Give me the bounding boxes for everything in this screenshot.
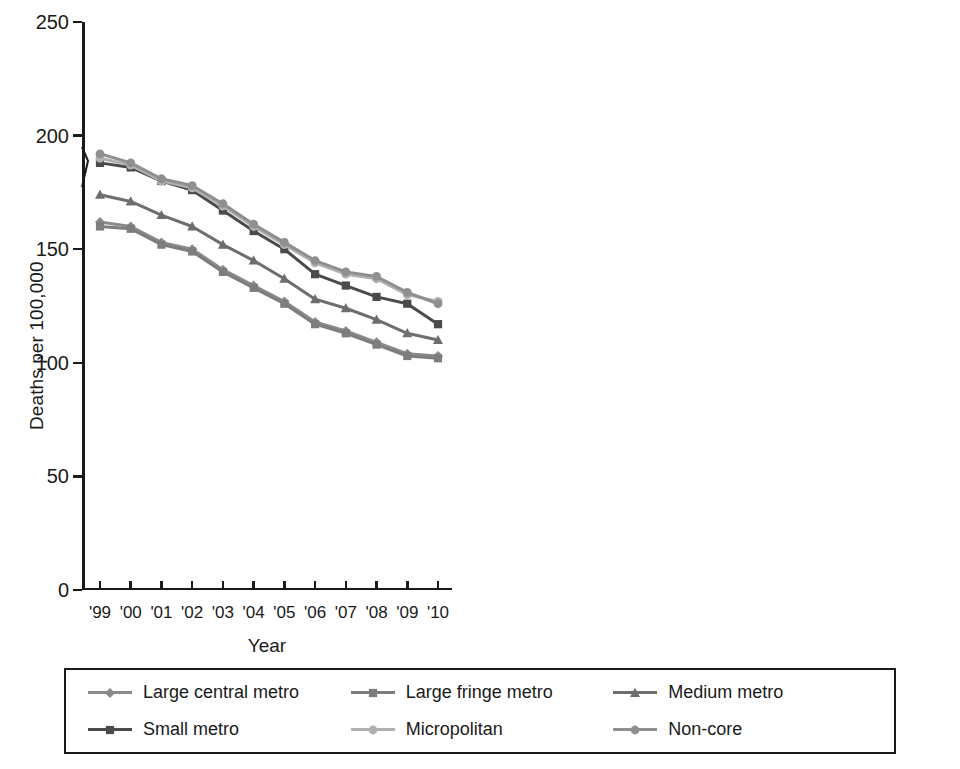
data-point-marker: [403, 352, 411, 360]
series-small-metro: [96, 159, 442, 329]
x-tick-label: '04: [243, 603, 265, 623]
series-line: [100, 195, 438, 340]
axis-break-mark: [82, 147, 88, 187]
y-tick-label: 0: [58, 579, 69, 602]
x-axis-title-left: Year: [82, 635, 452, 657]
y-tick-label: 50: [47, 465, 69, 488]
data-point-marker: [434, 320, 442, 328]
data-point-marker: [342, 329, 350, 337]
data-point-marker: [157, 174, 166, 183]
y-tick: [73, 134, 82, 137]
legend-marker-square-icon: [351, 685, 395, 701]
legend-item[interactable]: Large central metro: [88, 682, 351, 703]
legend-item[interactable]: Large fringe metro: [351, 682, 614, 703]
legend-label: Large central metro: [143, 682, 299, 703]
y-axis-title-left: Deaths per 100,000: [26, 261, 48, 430]
legend-item[interactable]: Medium metro: [613, 682, 876, 703]
data-point-marker: [372, 293, 380, 301]
x-tick-label: '06: [304, 603, 326, 623]
legend-label: Medium metro: [668, 682, 783, 703]
data-point-marker: [311, 270, 319, 278]
x-tick-label: '08: [365, 603, 387, 623]
plot-area-left: 050100150200250 '99'00'01'02'03'04'05'06…: [82, 22, 452, 590]
figure-root: Deaths per 100,000 050100150200250 '99'0…: [0, 0, 960, 769]
legend-marker-circle-icon: [351, 722, 395, 738]
legend-marker-triangle-icon: [613, 685, 657, 701]
y-tick-label: 100: [36, 351, 69, 374]
data-point-marker: [403, 288, 412, 297]
y-tick: [73, 475, 82, 478]
data-point-marker: [434, 299, 443, 308]
series-non-core: [96, 149, 443, 308]
series-layer-left: [82, 22, 452, 590]
data-point-marker: [280, 238, 289, 247]
y-tick: [73, 248, 82, 251]
data-point-marker: [96, 222, 104, 230]
series-line: [100, 222, 438, 356]
data-point-marker: [403, 300, 411, 308]
data-point-marker: [188, 181, 197, 190]
data-point-marker: [341, 268, 350, 277]
legend-label: Micropolitan: [406, 719, 503, 740]
data-point-marker: [188, 247, 196, 255]
data-point-marker: [106, 725, 114, 733]
chart-panel-ratio: Mortality ratio (large central metro ref…: [480, 0, 960, 660]
data-point-marker: [249, 220, 258, 229]
data-point-marker: [96, 149, 105, 158]
x-tick-label: '03: [212, 603, 234, 623]
data-point-marker: [311, 256, 320, 265]
data-point-marker: [219, 199, 228, 208]
chart-panel-deaths: Deaths per 100,000 050100150200250 '99'0…: [0, 0, 480, 660]
data-point-marker: [369, 688, 377, 696]
data-point-marker: [219, 268, 227, 276]
y-tick-label: 150: [36, 238, 69, 261]
y-tick: [73, 21, 82, 24]
series-medium-metro: [95, 189, 443, 344]
data-point-marker: [280, 300, 288, 308]
data-point-marker: [372, 272, 381, 281]
data-point-marker: [311, 320, 319, 328]
x-tick-label: '99: [89, 603, 111, 623]
legend-marker-square-icon: [88, 722, 132, 738]
y-tick: [73, 362, 82, 365]
data-point-marker: [105, 688, 115, 698]
x-tick-label: '07: [335, 603, 357, 623]
data-point-marker: [157, 241, 165, 249]
legend-label: Small metro: [143, 719, 239, 740]
y-tick-label: 250: [36, 11, 69, 34]
x-tick-label: '05: [273, 603, 295, 623]
legend-marker-diamond-icon: [88, 685, 132, 701]
x-tick-label: '00: [120, 603, 142, 623]
data-point-marker: [368, 725, 377, 734]
y-tick-label: 200: [36, 124, 69, 147]
data-point-marker: [372, 341, 380, 349]
data-point-marker: [126, 158, 135, 167]
legend-label: Non-core: [668, 719, 742, 740]
data-point-marker: [250, 284, 258, 292]
y-tick: [73, 589, 82, 592]
data-point-marker: [127, 225, 135, 233]
legend-marker-circle-icon: [613, 722, 657, 738]
legend: Large central metroLarge fringe metroMed…: [64, 668, 896, 754]
legend-item[interactable]: Non-core: [613, 719, 876, 740]
x-tick-label: '01: [150, 603, 172, 623]
x-tick-label: '09: [396, 603, 418, 623]
legend-item[interactable]: Small metro: [88, 719, 351, 740]
data-point-marker: [342, 281, 350, 289]
legend-label: Large fringe metro: [406, 682, 553, 703]
data-point-marker: [434, 354, 442, 362]
x-tick-label: '02: [181, 603, 203, 623]
data-point-marker: [631, 725, 640, 734]
x-tick-label: '10: [427, 603, 449, 623]
legend-item[interactable]: Micropolitan: [351, 719, 614, 740]
series-line: [100, 163, 438, 324]
series-line: [100, 158, 438, 301]
data-point-marker: [630, 687, 640, 696]
